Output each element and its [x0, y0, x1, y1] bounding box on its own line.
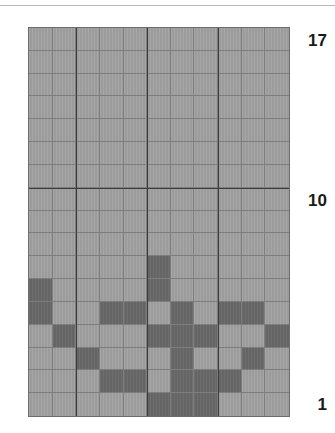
grid-cell: [147, 302, 171, 325]
grid-cell: [194, 393, 218, 416]
grid-cell: [76, 142, 100, 165]
grid-cell: [53, 165, 77, 188]
grid-cell: [171, 188, 195, 211]
grid-cell: [218, 28, 242, 51]
grid-cell: [76, 211, 100, 234]
grid-cell: [242, 165, 266, 188]
grid-cell: [218, 279, 242, 302]
grid-cell: [218, 211, 242, 234]
grid-cell: [242, 325, 266, 348]
grid-cell: [194, 279, 218, 302]
grid-cell: [76, 348, 100, 371]
grid-cell: [171, 348, 195, 371]
grid-cell: [242, 51, 266, 74]
grid-cell: [53, 142, 77, 165]
grid-cell: [53, 256, 77, 279]
grid-cell: [171, 119, 195, 142]
grid-cell: [76, 256, 100, 279]
grid-cell: [218, 119, 242, 142]
grid-cell: [53, 188, 77, 211]
grid-cell: [53, 348, 77, 371]
grid-cell: [100, 211, 124, 234]
grid-cell: [194, 165, 218, 188]
grid-cell: [76, 165, 100, 188]
grid-cell: [218, 74, 242, 97]
grid-cell: [147, 74, 171, 97]
lattice-grid-container: [28, 27, 290, 417]
grid-cell: [100, 28, 124, 51]
grid-cell: [218, 142, 242, 165]
grid-cell: [29, 370, 53, 393]
grid-cell: [100, 279, 124, 302]
grid-cell: [265, 325, 289, 348]
grid-cell: [171, 370, 195, 393]
grid-cell: [242, 393, 266, 416]
grid-cell: [265, 348, 289, 371]
grid-cell: [171, 325, 195, 348]
grid-cell: [124, 211, 148, 234]
grid-cell: [100, 370, 124, 393]
grid-cell: [124, 370, 148, 393]
grid-cell: [29, 96, 53, 119]
grid-cell: [29, 28, 53, 51]
grid-cell: [218, 51, 242, 74]
grid-cell: [29, 393, 53, 416]
grid-cell: [100, 142, 124, 165]
grid-cell: [194, 233, 218, 256]
grid-cell: [147, 233, 171, 256]
grid-cell: [147, 256, 171, 279]
grid-cell: [265, 51, 289, 74]
grid-cell: [242, 188, 266, 211]
grid-cell: [194, 142, 218, 165]
grid-cell: [147, 348, 171, 371]
grid-cell: [218, 96, 242, 119]
grid-cell: [194, 188, 218, 211]
grid-cell: [53, 370, 77, 393]
grid-cell: [53, 51, 77, 74]
grid-cell: [218, 370, 242, 393]
axis-label-bottom: 1: [318, 396, 327, 413]
grid-cell: [242, 96, 266, 119]
grid-cell: [171, 74, 195, 97]
grid-cell: [53, 393, 77, 416]
grid-cell: [242, 302, 266, 325]
grid-cell: [265, 393, 289, 416]
grid-cell: [242, 211, 266, 234]
grid-cell: [242, 370, 266, 393]
grid-cell: [53, 28, 77, 51]
grid-cell: [29, 119, 53, 142]
grid-cell: [147, 142, 171, 165]
grid-cell: [29, 233, 53, 256]
grid-cell: [53, 96, 77, 119]
grid-cell: [242, 142, 266, 165]
grid-cell: [218, 325, 242, 348]
grid-cell: [265, 302, 289, 325]
grid-cell: [147, 28, 171, 51]
axis-label-top: 17: [308, 32, 327, 49]
grid-cell: [171, 28, 195, 51]
grid-cell: [53, 74, 77, 97]
grid-cell: [242, 119, 266, 142]
grid-cell: [171, 302, 195, 325]
grid-cell: [218, 302, 242, 325]
grid-cell: [76, 325, 100, 348]
grid-cell: [100, 233, 124, 256]
grid-cell: [194, 325, 218, 348]
grid-cell: [147, 165, 171, 188]
grid-cell: [147, 325, 171, 348]
grid-cell: [53, 325, 77, 348]
top-horizontal-rule: [0, 5, 335, 6]
grid-cell: [265, 279, 289, 302]
grid-cell: [194, 211, 218, 234]
grid-cell: [265, 142, 289, 165]
grid-cell: [242, 74, 266, 97]
grid-cell: [194, 51, 218, 74]
grid-cell: [147, 188, 171, 211]
grid-cell: [147, 279, 171, 302]
grid-cell: [171, 393, 195, 416]
grid-cell: [194, 256, 218, 279]
grid-cell: [124, 74, 148, 97]
grid-cell: [171, 256, 195, 279]
grid-cell: [76, 74, 100, 97]
grid-cell: [29, 142, 53, 165]
